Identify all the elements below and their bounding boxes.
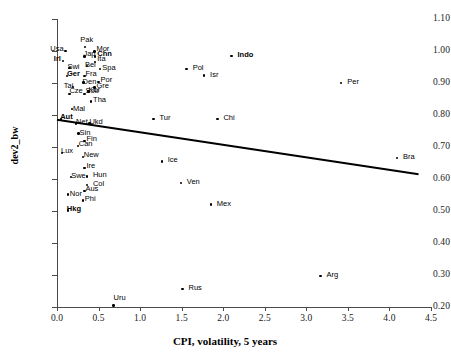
data-point-label: Ire [86, 162, 95, 170]
data-point-label: Uru [114, 294, 126, 302]
data-point [319, 275, 321, 277]
data-point [86, 175, 88, 177]
data-point-label: Aut [60, 113, 73, 121]
data-point-label: Indo [238, 51, 254, 59]
data-point-label: Irl [54, 55, 61, 63]
data-point-label: Can [79, 140, 93, 148]
data-point-label: Bel [85, 61, 96, 69]
data-point-label: Per [347, 78, 359, 86]
data-point [396, 157, 398, 159]
data-point [203, 74, 205, 76]
data-point [64, 50, 66, 52]
data-point [67, 193, 69, 195]
data-point-label: Spa [102, 64, 115, 72]
data-point-label: Ice [168, 156, 178, 164]
data-point [230, 55, 232, 57]
data-point-label: Pak [80, 36, 93, 44]
data-point-label: Aus [85, 185, 98, 193]
data-point-label: New [84, 151, 99, 159]
data-point [210, 203, 212, 205]
data-point-label: Ita [97, 55, 105, 63]
data-point-label: Ger [67, 70, 80, 78]
data-point [99, 68, 101, 70]
x-axis-title: CPI, volatility, 5 years [0, 335, 450, 347]
data-point-label: Hkg [67, 205, 81, 213]
data-point [83, 167, 85, 169]
data-point [340, 82, 342, 84]
data-point [90, 100, 92, 102]
data-point-label: Usa [50, 45, 63, 53]
data-point [112, 304, 114, 306]
data-point-label: Phi [85, 195, 96, 203]
data-point-label: Arg [326, 271, 338, 279]
data-point-label: Tur [159, 114, 170, 122]
data-point-label: Mal [73, 105, 85, 113]
data-point-label: Lux [61, 147, 73, 155]
data-point [82, 199, 84, 201]
data-point [216, 118, 218, 120]
data-point [152, 118, 154, 120]
data-point-label: Cze [69, 87, 82, 95]
data-point-label: Bra [403, 153, 415, 161]
data-point [84, 46, 86, 48]
data-point-label: Chi [223, 114, 234, 122]
data-point-label: Nor [70, 190, 82, 198]
data-point [62, 60, 64, 62]
data-point-label: Swe [71, 172, 86, 180]
data-point-label: Hun [93, 171, 107, 179]
data-point [181, 288, 183, 290]
data-point-label: Rus [188, 284, 201, 292]
data-point-label: Mex [217, 200, 231, 208]
data-point [180, 182, 182, 184]
y-axis-title: dev2_bw [9, 106, 20, 186]
data-point-label: Pol [193, 64, 204, 72]
data-point [185, 68, 187, 70]
data-point [161, 160, 163, 162]
data-point-label: Tha [93, 96, 106, 104]
data-point-label: Isr [210, 71, 218, 79]
data-point-label: Ukd [89, 118, 102, 126]
data-point [94, 55, 96, 57]
data-point-label: Sou [85, 87, 98, 95]
data-point-label: Ven [187, 178, 200, 186]
data-point-label: Net [76, 118, 88, 126]
